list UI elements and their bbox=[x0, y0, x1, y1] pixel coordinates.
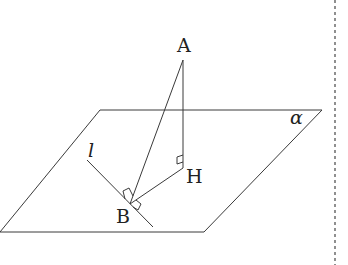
label-alpha: α bbox=[290, 106, 303, 128]
label-A: A bbox=[176, 34, 191, 56]
geometry-diagram: A H B l α bbox=[0, 0, 348, 265]
segment-HB bbox=[130, 168, 183, 204]
label-H: H bbox=[186, 165, 203, 187]
label-l: l bbox=[88, 139, 94, 161]
segment-AB bbox=[130, 60, 183, 204]
right-angle-marker-H bbox=[177, 155, 183, 164]
label-B: B bbox=[116, 205, 130, 227]
plane-alpha bbox=[0, 110, 322, 232]
right-angle-marker-B-AB bbox=[123, 188, 133, 199]
